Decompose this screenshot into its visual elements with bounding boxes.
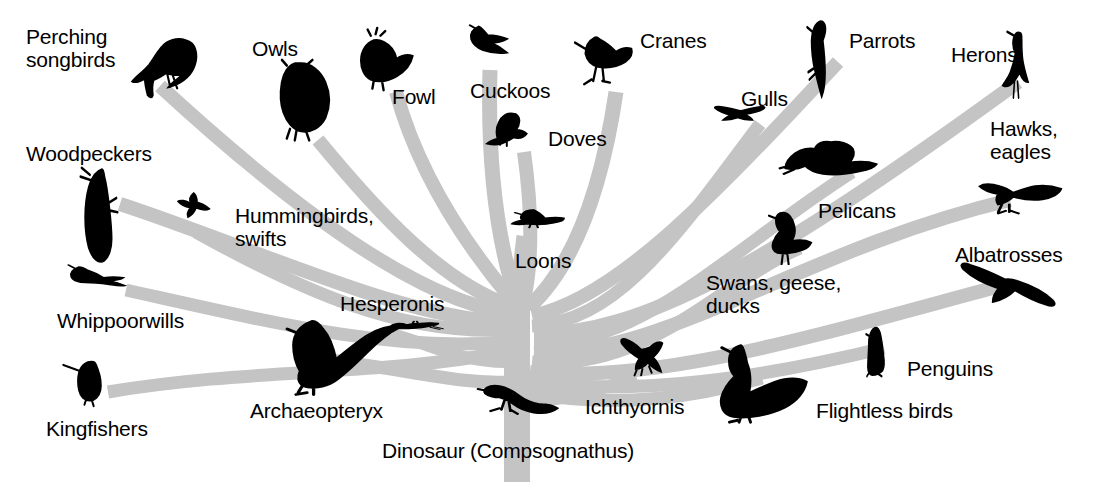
taxon-label-gulls[interactable]: Gulls <box>741 88 788 111</box>
taxon-label-swans-geese-ducks[interactable]: Swans, geese, ducks <box>706 272 841 317</box>
heron-icon <box>1003 30 1055 110</box>
whippoorwill-icon <box>67 264 143 308</box>
taxon-label-hawks-eagles[interactable]: Hawks, eagles <box>990 118 1058 163</box>
taxon-label-hesperonis[interactable]: Hesperonis <box>340 293 444 316</box>
cuckoo-icon <box>461 24 535 80</box>
kingfisher-icon <box>62 355 128 419</box>
taxon-label-penguins[interactable]: Penguins <box>907 358 993 381</box>
taxon-label-dinosaur-root[interactable]: Dinosaur (Compsognathus) <box>382 440 634 463</box>
pelican-icon <box>780 138 878 200</box>
taxon-label-woodpeckers[interactable]: Woodpeckers <box>26 143 152 166</box>
woodpecker-icon <box>78 166 138 246</box>
taxon-label-fowl[interactable]: Fowl <box>392 86 436 109</box>
taxon-label-loons[interactable]: Loons <box>515 250 571 273</box>
taxon-label-cuckoos[interactable]: Cuckoos <box>470 80 550 103</box>
taxon-label-doves[interactable]: Doves <box>548 128 607 151</box>
taxon-label-cranes[interactable]: Cranes <box>640 30 707 53</box>
taxon-label-parrots[interactable]: Parrots <box>849 30 915 53</box>
taxon-label-herons[interactable]: Herons <box>951 44 1018 67</box>
songbird-icon <box>131 36 201 98</box>
taxon-label-perching-songbirds[interactable]: Perching songbirds <box>26 26 115 71</box>
taxon-label-flightless-birds[interactable]: Flightless birds <box>816 400 953 423</box>
taxon-label-ichthyornis[interactable]: Ichthyornis <box>585 396 684 419</box>
phylogenetic-tree-figure: Perching songbirdsWoodpeckersHummingbird… <box>0 0 1103 482</box>
taxon-label-albatrosses[interactable]: Albatrosses <box>955 244 1063 267</box>
albatross-icon <box>960 262 1058 328</box>
hesperonis-icon <box>388 320 464 350</box>
owl-icon <box>266 60 346 144</box>
loon-icon <box>512 208 584 250</box>
hummingbird-icon <box>178 192 234 234</box>
taxon-label-owls[interactable]: Owls <box>252 38 298 61</box>
hawk-icon <box>978 176 1070 234</box>
taxon-label-hummingbirds-swifts[interactable]: Hummingbirds, swifts <box>235 205 374 250</box>
taxon-label-kingfishers[interactable]: Kingfishers <box>46 418 148 441</box>
branch-cuckoos <box>490 70 517 300</box>
ichthyornis-icon <box>620 338 686 396</box>
emu-icon <box>716 340 812 426</box>
dove-icon <box>487 110 553 166</box>
taxon-label-whippoorwills[interactable]: Whippoorwills <box>57 310 184 333</box>
taxon-label-archaeopteryx[interactable]: Archaeopteryx <box>250 400 383 423</box>
archaeopteryx-icon <box>285 318 395 400</box>
taxon-label-pelicans[interactable]: Pelicans <box>818 200 896 223</box>
compsognathus-icon <box>478 378 568 440</box>
gull-icon <box>714 105 788 143</box>
penguin-icon <box>866 325 910 393</box>
